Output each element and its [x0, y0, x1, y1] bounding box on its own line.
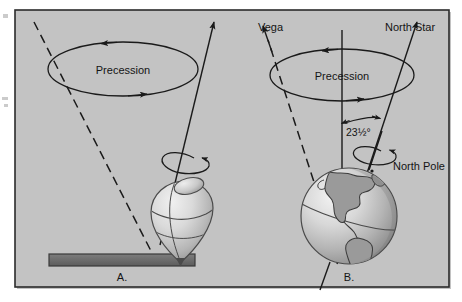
tilt-angle-label: 23½° [346, 126, 371, 138]
precession-label-a: Precession [96, 64, 150, 76]
north-star-label: North Star [385, 21, 435, 33]
north-pole-label: North Pole [393, 160, 445, 172]
precession-diagram: Precession [0, 0, 462, 302]
scan-artifact [2, 97, 8, 100]
figure-root: Precession [0, 0, 462, 302]
panel-b-letter: B. [344, 271, 354, 283]
panel-a-letter: A. [117, 271, 127, 283]
vega-label: Vega [258, 21, 284, 33]
precession-label-b: Precession [315, 70, 369, 82]
scan-artifact [4, 104, 8, 107]
scan-artifact [3, 14, 8, 18]
